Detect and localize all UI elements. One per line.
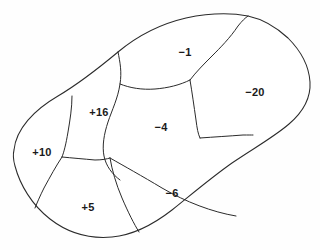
region-label-plus5: +5	[82, 201, 95, 213]
region-label-neg4: −4	[155, 121, 169, 133]
region-label-neg1: −1	[179, 46, 192, 58]
region-partition-diagram: +10 +16 +5 −1 −4 −6 −20	[0, 0, 320, 250]
diagram-root: +10 +16 +5 −1 −4 −6 −20	[0, 0, 320, 250]
region-label-neg6: −6	[166, 187, 179, 199]
region-label-plus16: +16	[89, 106, 108, 118]
region-label-plus10: +10	[32, 146, 51, 158]
region-label-neg20: −20	[245, 86, 264, 98]
